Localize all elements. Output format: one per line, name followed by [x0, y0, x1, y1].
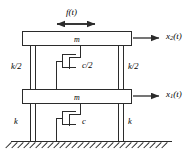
- displacement-top-label: x2(t): [166, 32, 182, 42]
- spring-upper-left-label: k/2: [11, 62, 21, 71]
- vibration-system-diagram: f(t) m x2(t) k/2 k/2: [0, 0, 193, 160]
- mass-block-bottom: m: [22, 89, 132, 104]
- displacement-top-arg: (t): [173, 31, 182, 41]
- mass-block-top: m: [22, 31, 132, 46]
- spring-lower-right-label: k: [128, 117, 132, 126]
- spring-column-lower-right: [118, 104, 124, 142]
- damper-lower-label: c: [82, 117, 86, 126]
- spring-column-upper-right: [118, 46, 124, 90]
- damper-lower-icon: [56, 104, 92, 142]
- displacement-arrow-top-icon: [133, 34, 165, 44]
- mass-top-label: m: [23, 34, 131, 43]
- damper-upper-label: c/2: [82, 61, 92, 70]
- force-arrow-icon: [55, 20, 99, 30]
- ground-icon: [11, 142, 172, 150]
- spring-column-lower-left: [30, 104, 36, 142]
- spring-lower-left-label: k: [14, 117, 18, 126]
- force-label: f(t): [66, 8, 77, 17]
- spring-column-upper-left: [30, 46, 36, 90]
- displacement-bottom-label: x1(t): [166, 90, 182, 100]
- spring-upper-right-label: k/2: [128, 62, 138, 71]
- displacement-arrow-bottom-icon: [133, 92, 165, 102]
- displacement-bottom-arg: (t): [173, 89, 182, 99]
- mass-bottom-label: m: [23, 92, 131, 101]
